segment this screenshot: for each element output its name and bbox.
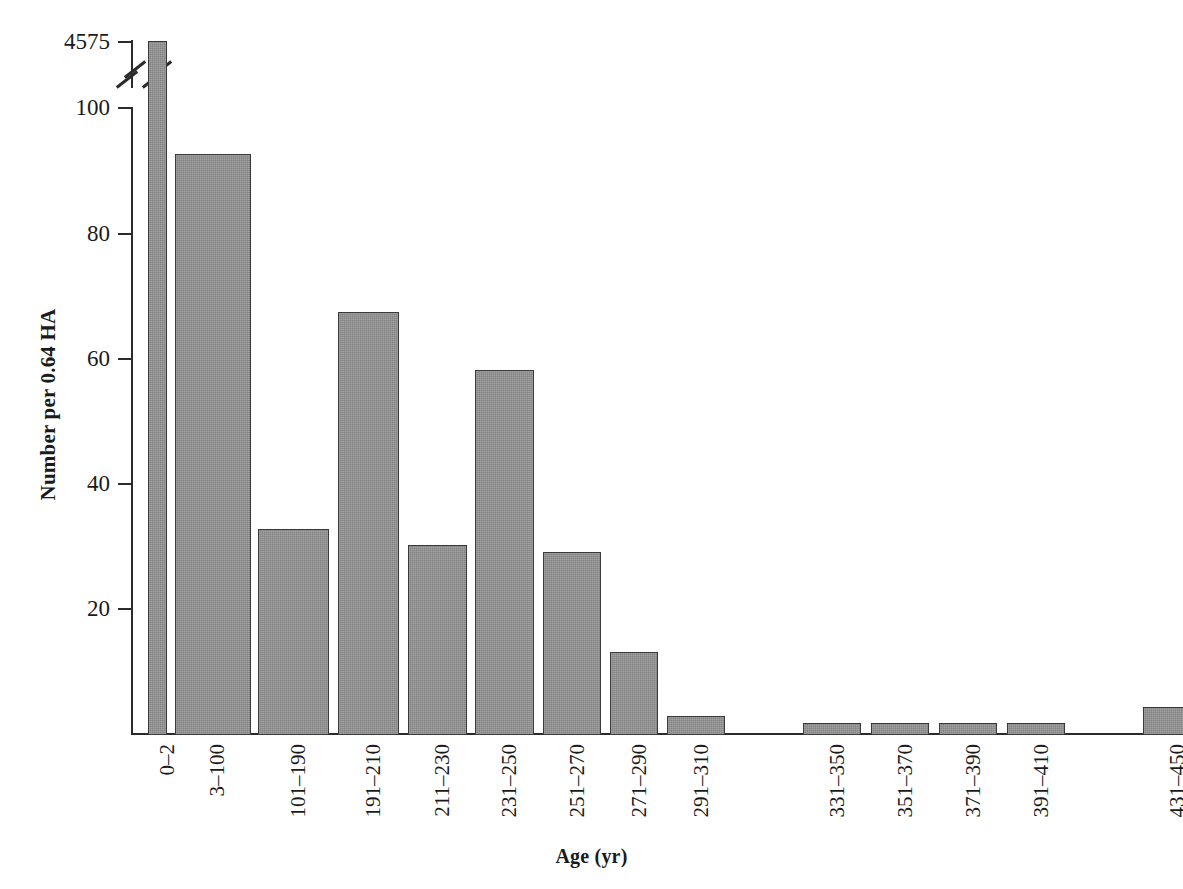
y-tick-4575 — [118, 41, 132, 43]
x-tick-label: 331–350 — [825, 744, 850, 818]
x-tick-label: 3–100 — [205, 744, 230, 797]
y-tick-20 — [118, 608, 132, 610]
x-tick-label: 211–230 — [430, 744, 455, 817]
bar-chart-figure: Number per 0.64 HA 4575 100 80 60 40 20 … — [0, 0, 1183, 889]
y-tick-100 — [118, 107, 132, 109]
y-tick-label-60: 60 — [10, 347, 110, 370]
y-tick-label-4575: 4575 — [10, 30, 110, 53]
bar — [148, 41, 167, 735]
bar — [1007, 723, 1065, 735]
x-tick-label: 371–390 — [961, 744, 986, 818]
bar — [871, 723, 929, 735]
bar — [803, 723, 861, 735]
x-tick-label: 391–410 — [1029, 744, 1054, 818]
y-tick-label-40: 40 — [10, 472, 110, 495]
y-tick-label-20: 20 — [10, 597, 110, 620]
y-axis-title: Number per 0.64 HA — [36, 275, 61, 535]
y-tick-40 — [118, 483, 132, 485]
bar — [258, 529, 329, 735]
bar — [610, 652, 658, 735]
x-tick-label: 351–370 — [893, 744, 918, 818]
x-tick-label: 431–450 — [1165, 744, 1183, 818]
bar — [543, 552, 601, 735]
bar — [338, 312, 399, 735]
y-tick-label-100: 100 — [10, 96, 110, 119]
x-axis-title: Age (yr) — [0, 845, 1183, 868]
bar — [408, 545, 467, 735]
bar — [175, 154, 251, 735]
bar — [667, 716, 725, 735]
x-tick-label: 231–250 — [497, 744, 522, 818]
bar — [939, 723, 997, 735]
y-tick-label-80: 80 — [10, 222, 110, 245]
x-tick-label: 191–210 — [361, 744, 386, 818]
x-tick-label: 291–310 — [689, 744, 714, 818]
x-tick-label: 251–270 — [565, 744, 590, 818]
x-tick-label: 271–290 — [627, 744, 652, 818]
plot-area — [131, 35, 1177, 735]
x-tick-label: 101–190 — [286, 744, 311, 818]
y-tick-60 — [118, 358, 132, 360]
bar — [475, 370, 534, 735]
y-tick-80 — [118, 233, 132, 235]
x-tick-label: 0–2 — [155, 744, 180, 776]
bar — [1143, 707, 1183, 735]
